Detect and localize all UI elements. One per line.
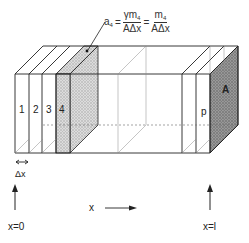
formula-equals-1: =: [115, 17, 121, 28]
x-axis-label: x: [89, 203, 94, 213]
slice-label-3: 3: [46, 105, 52, 115]
formula-fraction-2: m4 AΔx: [151, 10, 169, 34]
bar-diagram: a4 = γm4 AΔx = m4 AΔx 1 2 3 4 p A Δx x x…: [0, 0, 249, 243]
x0-label: x=0: [8, 222, 24, 232]
slice-4-highlight: [56, 46, 98, 153]
box-outline: [15, 46, 238, 153]
x0-arrow: [12, 184, 18, 210]
x-direction-arrow: [105, 206, 137, 211]
slice-label-p: p: [201, 107, 207, 117]
hidden-lines: [15, 46, 224, 153]
bar-drawing: [0, 0, 249, 243]
formula-fraction-1: γm4 AΔx: [123, 10, 142, 34]
slice-label-4: 4: [59, 105, 65, 115]
slice-label-1: 1: [19, 105, 25, 115]
mass-density-formula: a4 = γm4 AΔx = m4 AΔx: [104, 10, 170, 34]
delta-x-arrow: [16, 160, 28, 164]
slice-label-2: 2: [33, 105, 39, 115]
area-label: A: [222, 85, 229, 95]
xl-arrow: [207, 184, 213, 210]
xl-label: x=l: [203, 222, 216, 232]
delta-x-label: Δx: [15, 170, 26, 179]
formula-equals-2: =: [143, 17, 149, 28]
formula-lhs: a4: [104, 16, 113, 28]
